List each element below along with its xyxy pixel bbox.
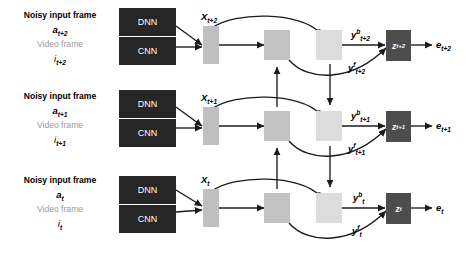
noisy-symbol-sub-t1: t+1 xyxy=(58,111,68,118)
e-symbol-t2: et+2 xyxy=(436,39,451,52)
backward-rnn-box-t1[interactable] xyxy=(316,111,342,141)
x-symbol-sub-t: t xyxy=(207,180,209,187)
yf-symbol-t1: yft+1 xyxy=(348,142,365,156)
yf-sup-t2: f xyxy=(353,61,355,68)
yb-sub-t: t xyxy=(362,198,364,205)
dnn-to-x-t2 xyxy=(176,26,202,45)
yb-sup-t1: b xyxy=(356,109,360,116)
video-frame-symbol-t: it xyxy=(8,218,112,231)
cnn-box-t[interactable]: CNN xyxy=(119,205,176,233)
yb-sup-t2: b xyxy=(356,28,360,35)
video-frame-label-t: Video frame xyxy=(8,205,112,214)
x-symbol-t1: Xt+1 xyxy=(201,92,217,105)
noisy-input-symbol-t2: at+2 xyxy=(8,24,112,37)
x-feature-box-t2[interactable] xyxy=(203,26,219,64)
noisy-input-symbol-t: at xyxy=(8,189,112,202)
video-frame-label-t1: Video frame xyxy=(8,121,112,130)
backward-rnn-box-t[interactable] xyxy=(316,193,342,223)
yf-symbol-t: yft xyxy=(352,224,362,238)
cnn-to-x-t xyxy=(176,210,202,212)
x-symbol-t: Xt xyxy=(201,174,210,187)
z-box-t1[interactable]: zt+1 xyxy=(386,111,411,142)
dnn-to-x-t xyxy=(176,190,202,206)
z-sub-t: t xyxy=(400,206,402,212)
architecture-diagram: Noisy input frame at+2 Video frame it+2 … xyxy=(0,0,466,263)
yf-sup-t: f xyxy=(357,224,359,231)
yf-sup-t1: f xyxy=(353,142,355,149)
dnn-box-t[interactable]: DNN xyxy=(119,176,176,204)
z-box-t[interactable]: zt xyxy=(386,193,411,224)
yf-symbol-t2: yft+2 xyxy=(348,61,365,75)
video-symbol-sub-t1: t+1 xyxy=(56,140,66,147)
e-symbol-t: et xyxy=(436,202,444,215)
noisy-symbol-sub-t2: t+2 xyxy=(58,30,68,37)
e-sub-t: t xyxy=(441,208,443,215)
e-sub-t1: t+1 xyxy=(441,126,451,133)
e-symbol-t1: et+1 xyxy=(436,120,451,133)
video-frame-symbol-t1: it+1 xyxy=(8,134,112,147)
yb-sup-t: b xyxy=(358,191,362,198)
dnn-to-x-t1 xyxy=(176,107,202,126)
e-sub-t2: t+2 xyxy=(441,45,451,52)
x-feature-box-t1[interactable] xyxy=(203,107,219,145)
noisy-input-frame-label-t1: Noisy input frame xyxy=(8,92,112,101)
forward-rnn-box-t[interactable] xyxy=(264,193,290,223)
dnn-box-t1[interactable]: DNN xyxy=(119,90,176,118)
z-sub-t2: t+2 xyxy=(396,43,405,49)
yf-sub-t1: t+1 xyxy=(356,149,366,156)
forward-rnn-box-t2[interactable] xyxy=(264,30,290,60)
yf-sub-t: t xyxy=(360,231,362,238)
yf-sub-t2: t+2 xyxy=(356,68,366,75)
x-symbol-sub-t2: t+2 xyxy=(207,17,217,24)
yb-symbol-t2: ybt+2 xyxy=(351,28,370,42)
forward-rnn-box-t1[interactable] xyxy=(264,111,290,141)
x-feature-box-t[interactable] xyxy=(203,189,219,227)
yb-symbol-t: ybt xyxy=(353,191,365,205)
noisy-input-symbol-t1: at+1 xyxy=(8,105,112,118)
x-symbol-sub-t1: t+1 xyxy=(207,98,217,105)
video-frame-symbol-t2: it+2 xyxy=(8,53,112,66)
backward-rnn-box-t2[interactable] xyxy=(316,30,342,60)
video-symbol-sub-t2: t+2 xyxy=(56,59,66,66)
cnn-box-t2[interactable]: CNN xyxy=(119,37,176,65)
noisy-symbol-sub-t: t xyxy=(62,195,64,202)
yb-sub-t2: t+2 xyxy=(360,35,370,42)
noisy-input-frame-label-t2: Noisy input frame xyxy=(8,11,112,20)
z-sub-t1: t+1 xyxy=(396,124,405,130)
x-symbol-t2: Xt+2 xyxy=(201,11,217,24)
video-frame-label-t2: Video frame xyxy=(8,40,112,49)
yb-sub-t1: t+1 xyxy=(360,116,370,123)
dnn-box-t2[interactable]: DNN xyxy=(119,8,176,36)
cnn-box-t1[interactable]: CNN xyxy=(119,119,176,147)
z-box-t2[interactable]: zt+2 xyxy=(386,30,411,61)
noisy-input-frame-label-t: Noisy input frame xyxy=(8,176,112,185)
video-symbol-sub-t: t xyxy=(60,224,62,231)
yb-symbol-t1: ybt+1 xyxy=(351,109,370,123)
